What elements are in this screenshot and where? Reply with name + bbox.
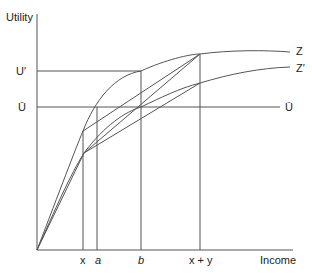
b-tick-label: b bbox=[138, 255, 144, 266]
chord-origin bbox=[37, 153, 84, 250]
chord-lower bbox=[84, 83, 200, 153]
x-tick-label: x bbox=[80, 255, 86, 266]
utility-diagram bbox=[0, 0, 312, 277]
x-axis-label: Income bbox=[260, 255, 296, 266]
z-curve bbox=[37, 51, 290, 250]
z-prime-curve bbox=[37, 67, 290, 250]
u-bar-line-label: Ū bbox=[285, 102, 293, 113]
u-prime-tick-label: U′ bbox=[16, 66, 26, 77]
a-tick-label: a bbox=[95, 255, 101, 266]
u-bar-tick-label: Ū bbox=[18, 102, 26, 113]
chord-middle bbox=[84, 54, 200, 153]
y-axis-label: Utility bbox=[6, 12, 33, 23]
z-curve-label: Z bbox=[296, 46, 303, 57]
z-prime-curve-label: Z′ bbox=[296, 63, 305, 74]
x-plus-y-tick-label: x + y bbox=[189, 255, 213, 266]
